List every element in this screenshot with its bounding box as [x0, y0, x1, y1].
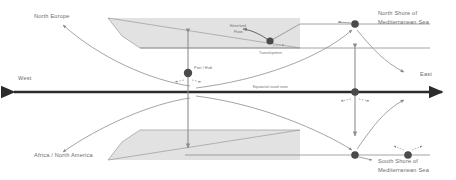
label-africa-north-america: Africa / North America [34, 152, 93, 158]
diagram-root: North Europe North Shore of Mediterranea… [0, 0, 456, 180]
node-south-west[interactable] [351, 151, 359, 159]
flow-north-east-to-east [357, 30, 404, 72]
node-axis-east[interactable] [351, 88, 359, 96]
flow-south-to-east [357, 100, 404, 149]
node-port-hub-center[interactable] [184, 69, 192, 77]
node-north-east[interactable] [351, 20, 359, 28]
label-north-europe: North Europe [34, 13, 70, 19]
label-north-shore-line2: Mediterranean Sea [378, 19, 430, 25]
label-south-shore-line2: Mediterranean Sea [378, 167, 430, 173]
label-port-hub: Port / Hub [194, 66, 212, 70]
label-main-route: Equatorial round route [253, 85, 288, 89]
label-north-shore-line1: North Shore of [378, 10, 417, 16]
label-hinterland-line2: Flows [234, 30, 243, 34]
label-west: West [18, 75, 32, 81]
node-north-west[interactable] [266, 37, 273, 44]
divergence-arrows-north-node [338, 22, 351, 23]
label-east: East [420, 71, 432, 77]
label-transshipment: Transshipment [259, 51, 282, 55]
landmass-south [108, 130, 300, 160]
label-hinterland-line1: Hinterland [230, 24, 246, 28]
label-south-shore-line1: South Shore of [378, 158, 418, 164]
diagram-canvas: North Europe North Shore of Mediterranea… [0, 0, 456, 180]
